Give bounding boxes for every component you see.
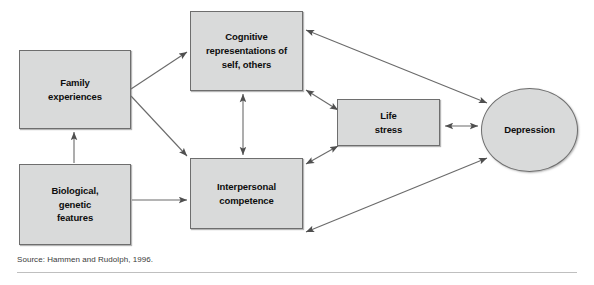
source-note: Source: Hammen and Rudolph, 1996.: [17, 255, 153, 264]
arrow-interpersonal-lifestress: [306, 146, 338, 164]
bottom-divider: [17, 272, 577, 273]
node-label: Life stress: [371, 109, 406, 137]
node-family-experiences[interactable]: Family experiences: [19, 50, 131, 129]
arrow-cognitive-lifestress: [306, 90, 338, 110]
node-life-stress[interactable]: Life stress: [337, 99, 440, 146]
arrow-interpersonal-depression: [306, 158, 487, 232]
node-label: Biological, genetic features: [48, 184, 103, 225]
node-label: Family experiences: [44, 76, 106, 104]
node-label: Depression: [500, 123, 559, 137]
arrow-cognitive-depression: [306, 30, 487, 103]
node-biological-genetic-features[interactable]: Biological, genetic features: [19, 164, 131, 245]
node-label: Interpersonal competence: [213, 180, 280, 208]
node-interpersonal-competence[interactable]: Interpersonal competence: [190, 158, 303, 229]
node-label: Cognitive representations of self, other…: [202, 30, 291, 71]
arrow-family-to-cognitive: [131, 52, 187, 89]
node-cognitive-representations[interactable]: Cognitive representations of self, other…: [190, 11, 303, 91]
arrow-family-to-interpersonal: [131, 96, 187, 156]
figure-canvas: Family experiences Biological, genetic f…: [0, 0, 594, 285]
node-depression[interactable]: Depression: [481, 88, 578, 172]
